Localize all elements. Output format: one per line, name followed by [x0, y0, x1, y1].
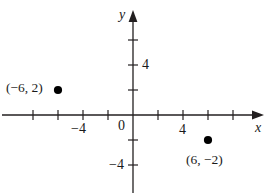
x-axis-label: x	[255, 121, 261, 135]
data-point-b	[204, 136, 212, 144]
y-axis-arrowhead	[129, 10, 138, 22]
y-tick-label-pos4: 4	[142, 58, 149, 72]
x-tick-label-neg4: −4	[71, 122, 86, 136]
coordinate-axes-graphic	[0, 0, 271, 193]
coordinate-plane-figure: y x 0 −4 4 4 −4 (−6, 2) (6, −2)	[0, 0, 271, 193]
x-tick-label-pos4: 4	[179, 123, 186, 137]
x-axis-arrowhead	[252, 111, 264, 120]
y-axis-label: y	[119, 8, 125, 22]
data-point-a	[54, 86, 62, 94]
data-point-b-label: (6, −2)	[186, 153, 223, 167]
origin-label: 0	[118, 119, 125, 133]
data-point-a-label: (−6, 2)	[6, 81, 43, 95]
y-tick-label-neg4: −4	[109, 158, 124, 172]
